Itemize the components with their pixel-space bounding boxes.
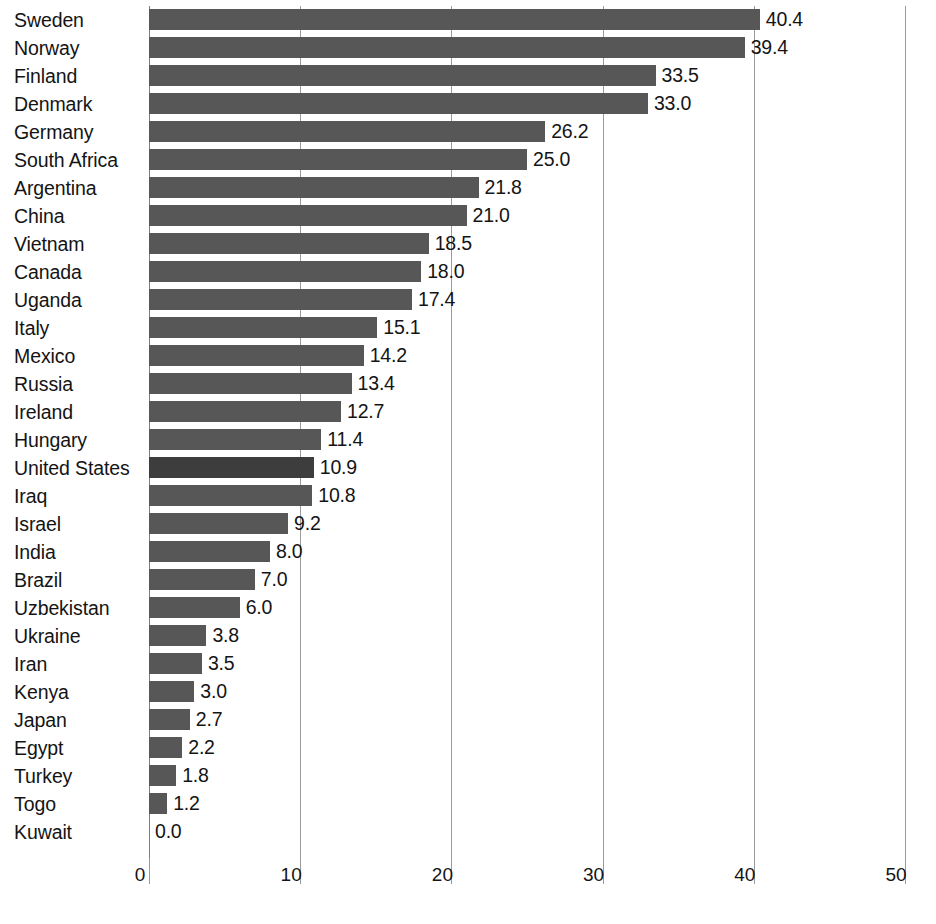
bar-value-label: 3.8	[212, 623, 239, 647]
bar-row: 26.2	[149, 118, 905, 146]
bar	[149, 681, 194, 702]
bar-value-label: 0.0	[155, 819, 182, 843]
x-tick-label: 40	[734, 864, 755, 886]
bar-value-label: 33.0	[654, 91, 691, 115]
bar-row: 15.1	[149, 314, 905, 342]
x-axis: 01020304050	[149, 858, 905, 898]
category-label: India	[14, 538, 142, 566]
bar-value-label: 9.2	[294, 511, 321, 535]
category-label: South Africa	[14, 146, 142, 174]
bar	[149, 205, 467, 226]
bar-row: 14.2	[149, 342, 905, 370]
bar-row: 6.0	[149, 594, 905, 622]
category-label: Mexico	[14, 342, 142, 370]
bar-value-label: 8.0	[276, 539, 303, 563]
bar-value-label: 14.2	[370, 343, 407, 367]
bar-row: 10.8	[149, 482, 905, 510]
bar	[149, 345, 364, 366]
category-label: Norway	[14, 34, 142, 62]
bar-row: 1.2	[149, 790, 905, 818]
bar	[149, 149, 527, 170]
bar	[149, 513, 288, 534]
category-label: United States	[14, 454, 142, 482]
bar-value-label: 6.0	[246, 595, 273, 619]
bar-row: 3.5	[149, 650, 905, 678]
bar-row: 40.4	[149, 6, 905, 34]
bar	[149, 625, 206, 646]
bar-value-label: 15.1	[383, 315, 420, 339]
bar	[149, 9, 760, 30]
bar-value-label: 25.0	[533, 147, 570, 171]
bar-row: 18.5	[149, 230, 905, 258]
bar-value-label: 21.0	[473, 203, 510, 227]
category-label: Vietnam	[14, 230, 142, 258]
bar-row: 21.8	[149, 174, 905, 202]
bar	[149, 737, 182, 758]
bar-value-label: 7.0	[261, 567, 288, 591]
category-label: Togo	[14, 790, 142, 818]
bar-value-label: 3.5	[208, 651, 235, 675]
bar	[149, 233, 429, 254]
category-label: Kenya	[14, 678, 142, 706]
category-label: Hungary	[14, 426, 142, 454]
bar	[149, 317, 377, 338]
category-label: Sweden	[14, 6, 142, 34]
bar-row: 33.5	[149, 62, 905, 90]
bar-row: 25.0	[149, 146, 905, 174]
bar-value-label: 3.0	[200, 679, 227, 703]
bar-row: 13.4	[149, 370, 905, 398]
bar	[149, 93, 648, 114]
category-label: Kuwait	[14, 818, 142, 846]
bar-value-label: 2.7	[196, 707, 223, 731]
category-label: Uzbekistan	[14, 594, 142, 622]
bar-row: 2.2	[149, 734, 905, 762]
bar-row: 17.4	[149, 286, 905, 314]
bar-value-label: 26.2	[551, 119, 588, 143]
bar-row: 18.0	[149, 258, 905, 286]
category-label: Canada	[14, 258, 142, 286]
bar-row: 33.0	[149, 90, 905, 118]
bar-row: 9.2	[149, 510, 905, 538]
bar	[149, 373, 352, 394]
bar-value-label: 18.5	[435, 231, 472, 255]
category-label: Egypt	[14, 734, 142, 762]
category-label: Uganda	[14, 286, 142, 314]
gridline-50	[905, 6, 906, 858]
bar	[149, 429, 321, 450]
bar	[149, 541, 270, 562]
category-label: Ukraine	[14, 622, 142, 650]
bar-row: 3.8	[149, 622, 905, 650]
bar-chart: SwedenNorwayFinlandDenmarkGermanySouth A…	[0, 0, 936, 924]
bar-value-label: 39.4	[751, 35, 788, 59]
bar-row: 7.0	[149, 566, 905, 594]
x-tick-label: 0	[135, 864, 146, 886]
category-label: Italy	[14, 314, 142, 342]
category-label: China	[14, 202, 142, 230]
category-label: Germany	[14, 118, 142, 146]
bar-value-label: 10.9	[320, 455, 357, 479]
category-label: Brazil	[14, 566, 142, 594]
bar	[149, 765, 176, 786]
bar	[149, 177, 479, 198]
bar-value-label: 17.4	[418, 287, 455, 311]
category-label: Japan	[14, 706, 142, 734]
x-tick-label: 10	[281, 864, 302, 886]
bar	[149, 709, 190, 730]
bar-row: 3.0	[149, 678, 905, 706]
category-label: Denmark	[14, 90, 142, 118]
category-label: Iraq	[14, 482, 142, 510]
x-tick-label: 20	[432, 864, 453, 886]
bar	[149, 485, 312, 506]
clipped-caption-fragment	[300, 915, 860, 924]
bar-value-label: 10.8	[318, 483, 355, 507]
bar-value-label: 2.2	[188, 735, 215, 759]
bar	[149, 569, 255, 590]
bar	[149, 121, 545, 142]
category-label: Russia	[14, 370, 142, 398]
tick-mark-0	[149, 858, 150, 884]
bar-row: 0.0	[149, 818, 905, 846]
bar	[149, 597, 240, 618]
x-tick-label: 30	[583, 864, 604, 886]
bar-row: 2.7	[149, 706, 905, 734]
bar	[149, 457, 314, 478]
